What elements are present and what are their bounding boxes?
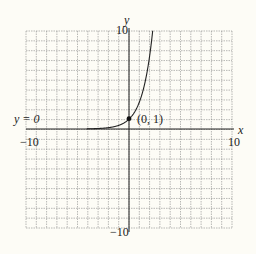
graph-canvas — [0, 0, 256, 254]
y-max-label: 10 — [116, 24, 128, 36]
point-0-1 — [127, 116, 132, 121]
asymptote-label: y = 0 — [14, 113, 39, 125]
y-min-label: −10 — [110, 226, 129, 238]
point-label: (0, 1) — [137, 113, 163, 125]
x-max-label: 10 — [228, 136, 240, 148]
x-min-label: −10 — [20, 136, 39, 148]
